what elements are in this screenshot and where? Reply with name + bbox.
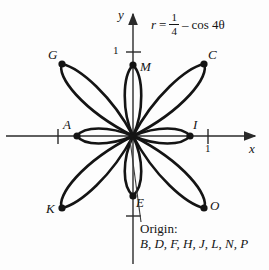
point-label-I: I (193, 118, 197, 131)
equation-label: r = 1 4 – cos 4θ (151, 12, 225, 37)
point-dot-G (58, 60, 65, 67)
x-axis-label: x (249, 142, 255, 155)
polar-rose-figure: r = 1 4 – cos 4θ y x 1 1 G C K O M E I A… (0, 0, 269, 270)
equation-equals: = (159, 17, 166, 33)
point-dot-A (73, 132, 80, 139)
origin-annotation-points: B, D, F, H, J, L, N, P (140, 237, 248, 252)
point-label-G: G (48, 48, 57, 61)
point-label-E: E (136, 196, 144, 209)
point-label-K: K (46, 202, 55, 215)
point-dot-C (200, 60, 207, 67)
y-tick-label-one: 1 (113, 45, 119, 56)
equation-cos-term: cos 4θ (191, 17, 224, 33)
point-dot-K (58, 204, 65, 211)
fraction-numerator: 1 (169, 12, 179, 23)
point-dot-I (186, 132, 193, 139)
point-dot-O (200, 204, 207, 211)
fraction-denominator: 4 (169, 26, 179, 37)
petal-large-upper-left (61, 64, 133, 136)
y-axis-label: y (118, 8, 124, 21)
point-label-C: C (208, 48, 217, 61)
x-tick-label-one: 1 (205, 143, 211, 154)
point-label-M: M (140, 60, 151, 73)
equation-fraction: 1 4 (169, 12, 179, 37)
point-dot-M (129, 61, 136, 68)
petal-large-lower-left (61, 136, 133, 208)
point-label-O: O (210, 199, 219, 212)
point-label-A: A (63, 118, 71, 131)
origin-annotation: Origin: B, D, F, H, J, L, N, P (140, 222, 248, 251)
equation-lhs: r (151, 17, 156, 33)
origin-annotation-heading: Origin: (140, 222, 248, 237)
equation-minus: – (182, 17, 189, 33)
